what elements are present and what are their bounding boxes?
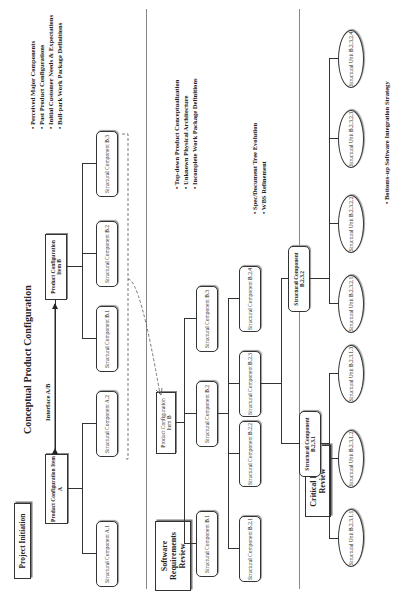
connector: [82, 163, 96, 164]
connector: [228, 453, 239, 454]
connector: [82, 553, 96, 554]
bullet: Unknown Physical Architecture: [181, 78, 190, 189]
diagram-canvas: Conceptual Product Configuration Project…: [0, 0, 402, 609]
connector: [329, 458, 338, 459]
bullet: Past Product Configurations: [37, 15, 46, 129]
config-item-b: Product Configuration Item B: [45, 234, 67, 300]
bullet: Initial Customer Needs & Expectations: [46, 15, 55, 129]
connector: [329, 138, 338, 139]
phase2-bullets: Top-down Product Conceptualization Unkno…: [172, 78, 199, 189]
connector: [82, 253, 96, 254]
component-b3: Structural Component B.3: [96, 131, 118, 197]
component-b1: Structural Component B.1: [96, 306, 118, 372]
unit-b2312: Structural Unit B.2.3.1.2: [338, 430, 364, 488]
connector: [228, 298, 239, 299]
connector: [82, 338, 96, 339]
unit-b2323: Structural Unit B.2.3.2.3: [338, 110, 364, 168]
component-b21: Structural Component B.2.1: [239, 516, 261, 582]
component-b3-detail: Structural Component B.3: [196, 286, 218, 352]
interface-label: Interface A/B: [44, 384, 51, 421]
trace-dashed-line: [122, 134, 160, 459]
config-item-a: Product Configuration Item A: [45, 454, 68, 524]
component-b2: Structural Component B.2: [96, 221, 118, 287]
phase3-mid-bullets: Spec/Document Tree Evolution WBS Refinem…: [250, 123, 268, 214]
connector: [184, 318, 196, 319]
connector: [329, 303, 338, 304]
interface-line: [55, 300, 56, 454]
unit-b2311: Structural Unit B.2.3.1.1: [338, 509, 364, 567]
connector: [329, 58, 338, 59]
connector: [218, 413, 228, 414]
component-b2-detail: Structural Component B.2: [196, 381, 218, 447]
component-b232: Structural Component B.2.3.2: [288, 246, 310, 312]
connector: [329, 373, 338, 374]
diagram-title: Conceptual Product Configuration: [22, 285, 33, 434]
bullet: Perceived Major Components: [28, 15, 37, 129]
connector: [176, 422, 184, 423]
connector: [82, 423, 96, 424]
connector: [281, 443, 299, 444]
connector: [329, 538, 338, 539]
component-b1-detail: Structural Component B.1: [196, 511, 218, 577]
connector: [329, 59, 330, 304]
bullet: Ball-park Work Package Definitions: [55, 15, 64, 129]
connector: [228, 548, 239, 549]
connector: [281, 279, 282, 444]
phase3-bottom-bullets: Bottoms-up Software Integration Strategy: [382, 81, 391, 204]
component-b24: Structural Component B.2.4: [239, 266, 261, 332]
bullet: WBS Refinement: [259, 123, 268, 214]
bullet: Incomplete Work Package Definitions: [190, 78, 199, 189]
connector: [329, 223, 338, 224]
bullet: Bottoms-up Software Integration Strategy: [382, 81, 391, 204]
phase1-bullets: Perceived Major Components Past Product …: [28, 15, 64, 129]
connector: [184, 413, 196, 414]
unit-b2324: Structural Unit B.2.3.2.4: [338, 30, 364, 88]
component-b22: Structural Component B.2.2: [239, 421, 261, 487]
unit-b2313: Structural Unit B.2.3.1.3: [338, 345, 364, 403]
connector: [68, 488, 82, 489]
section-separator-1: [146, 9, 147, 589]
connector: [184, 543, 196, 544]
connector: [82, 424, 83, 554]
milestone-software-requirements-review: Software Requirements Review: [155, 521, 191, 591]
connector: [228, 383, 239, 384]
connector: [321, 443, 329, 444]
milestone-project-initiation: Project Initiation: [14, 503, 31, 579]
connector: [184, 319, 185, 544]
connector: [82, 164, 83, 339]
unit-b2322: Structural Unit B.2.3.2.2: [338, 195, 364, 253]
bullet: Spec/Document Tree Evolution: [250, 123, 259, 214]
connector: [329, 374, 330, 539]
component-b23: Structural Component B.2.3: [239, 351, 261, 417]
component-b231: Structural Component B.2.3.1: [299, 411, 321, 477]
unit-b2321: Structural Unit B.2.3.2.1: [338, 275, 364, 333]
connector: [67, 266, 82, 267]
bullet: Top-down Product Conceptualization: [172, 78, 181, 189]
component-a2: Structural Component A.2: [96, 391, 118, 457]
connector: [310, 278, 329, 279]
component-a1: Structural Component A.1: [96, 521, 118, 587]
connector: [228, 299, 229, 549]
config-item-b-detail: Product Configuration Item B: [156, 392, 176, 454]
connector: [261, 383, 281, 384]
